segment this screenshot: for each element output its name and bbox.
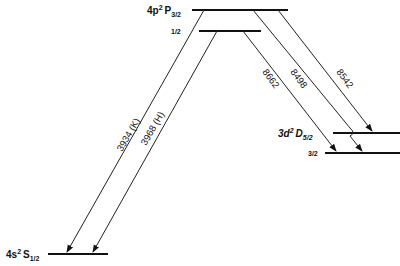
label-3d-D5-2: 3d2D5/2 xyxy=(278,127,313,141)
label-4p-P1-2: 1/2 xyxy=(171,28,181,35)
label-4s-S1-2: 4s2S1/2 xyxy=(6,248,40,262)
wavelength-label-3934: 3934 (K) xyxy=(114,116,142,153)
wavelength-label-8662: 8662 xyxy=(260,67,282,91)
label-4p-P3-2: 4p2P3/2 xyxy=(147,4,181,18)
transition-3968-H xyxy=(93,31,217,252)
label-3d-D3-2: 3/2 xyxy=(308,150,318,157)
wavelength-label-8498: 8498 xyxy=(288,67,310,91)
energy-level-diagram: 4p2P3/2 1/2 3d2D5/2 3/2 4s2S1/2 3934 (K)… xyxy=(0,0,400,266)
